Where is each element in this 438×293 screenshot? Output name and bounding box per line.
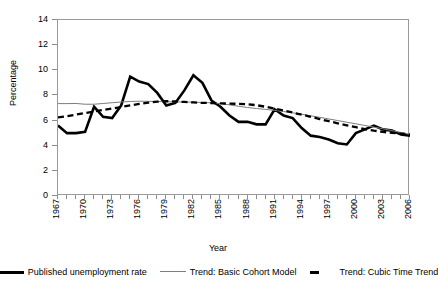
x-axis-tick-label: 1997 <box>323 199 332 219</box>
x-axis-tick-mark <box>364 195 365 199</box>
x-axis-tick-label: 2003 <box>377 199 386 219</box>
chart-series-svg <box>58 20 410 196</box>
x-axis-tick-mark <box>265 195 266 199</box>
chart-legend: Published unemployment rate Trend: Basic… <box>0 264 436 280</box>
y-axis-tick-label: 4 <box>43 140 48 149</box>
y-axis-tick-label: 8 <box>43 90 48 99</box>
legend-label-cubic-trend: Trend: Cubic Time Trend <box>340 267 438 277</box>
x-axis-tick-label: 1985 <box>214 199 223 219</box>
legend-item-published: Published unemployment rate <box>0 267 147 277</box>
x-axis-tick-mark <box>210 195 211 199</box>
x-axis-tick-mark <box>201 195 202 199</box>
legend-swatch-thick-solid-icon <box>0 267 24 277</box>
y-axis-tick-label: 6 <box>43 115 48 124</box>
x-axis-tick-mark <box>319 195 320 199</box>
x-axis-tick-mark <box>75 195 76 199</box>
y-axis-tick-label: 2 <box>43 165 48 174</box>
x-axis-tick-mark <box>337 195 338 199</box>
x-axis: 1967197019731976197919821985198819911994… <box>0 195 436 245</box>
x-axis-tick-mark <box>228 195 229 199</box>
x-axis-tick-mark <box>183 195 184 199</box>
legend-item-basic-cohort: Trend: Basic Cohort Model <box>160 267 297 277</box>
x-axis-tick-mark <box>400 195 401 199</box>
x-axis-tick-mark <box>346 195 347 199</box>
plot-area <box>57 19 409 195</box>
y-axis-title: Percentage <box>8 43 18 123</box>
y-axis-tick-label: 12 <box>38 40 48 49</box>
legend-label-basic-cohort: Trend: Basic Cohort Model <box>190 267 297 277</box>
x-axis-tick-label: 2000 <box>350 199 359 219</box>
legend-label-published: Published unemployment rate <box>28 267 147 277</box>
x-axis-title: Year <box>0 243 436 253</box>
x-axis-tick-label: 1970 <box>79 199 88 219</box>
x-axis-tick-label: 2006 <box>404 199 413 219</box>
y-axis-tick-label: 10 <box>38 65 48 74</box>
x-axis-tick-mark <box>174 195 175 199</box>
x-axis-tick-mark <box>373 195 374 199</box>
x-axis-tick-label: 1994 <box>296 199 305 219</box>
x-axis-tick-mark <box>310 195 311 199</box>
x-axis-tick-mark <box>256 195 257 199</box>
x-axis-tick-mark <box>156 195 157 199</box>
x-axis-tick-label: 1991 <box>269 199 278 219</box>
x-axis-tick-mark <box>102 195 103 199</box>
legend-swatch-thin-solid-icon <box>160 267 186 277</box>
x-axis-tick-label: 1982 <box>187 199 196 219</box>
x-axis-tick-mark <box>120 195 121 199</box>
x-axis-tick-label: 1976 <box>133 199 142 219</box>
legend-swatch-dashed-icon <box>310 267 336 277</box>
x-axis-tick-mark <box>283 195 284 199</box>
x-axis-tick-mark <box>147 195 148 199</box>
x-axis-tick-mark <box>238 195 239 199</box>
x-axis-tick-label: 1988 <box>242 199 251 219</box>
x-axis-tick-label: 1979 <box>160 199 169 219</box>
x-axis-tick-mark <box>391 195 392 199</box>
x-axis-tick-label: 1967 <box>52 199 61 219</box>
x-axis-tick-label: 1973 <box>106 199 115 219</box>
x-axis-tick-mark <box>129 195 130 199</box>
legend-item-cubic-trend: Trend: Cubic Time Trend <box>310 267 438 277</box>
x-axis-tick-mark <box>66 195 67 199</box>
x-axis-tick-mark <box>93 195 94 199</box>
y-axis-tick-label: 14 <box>38 15 48 24</box>
x-axis-tick-mark <box>292 195 293 199</box>
